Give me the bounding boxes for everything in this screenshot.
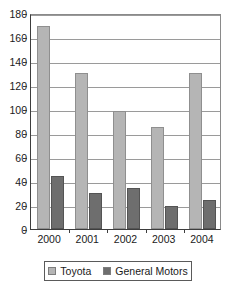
y-tick-mark: [23, 158, 27, 159]
x-tick-label-2004: 2004: [183, 233, 221, 247]
y-tick-mark: [23, 86, 27, 87]
bar-general-motors-2000: [51, 176, 64, 229]
y-tick-mark: [23, 134, 27, 135]
x-tick-label-2003: 2003: [145, 233, 183, 247]
x-tick-label-2001: 2001: [68, 233, 106, 247]
y-tick-mark: [23, 182, 27, 183]
y-tick-mark: [23, 14, 27, 15]
y-tick-mark: [23, 62, 27, 63]
legend-label: General Motors: [115, 266, 187, 277]
bar-group: [37, 15, 64, 229]
bar-group: [151, 15, 178, 229]
legend-item-general-motors[interactable]: General Motors: [103, 266, 187, 277]
bars-layer: [31, 15, 220, 229]
chart-legend: ToyotaGeneral Motors: [44, 261, 192, 281]
general-motors-swatch: [103, 267, 111, 275]
legend-label: Toyota: [60, 266, 91, 277]
legend-item-toyota[interactable]: Toyota: [48, 266, 91, 277]
page-edge-artifact: [0, 283, 234, 291]
y-tick-mark: [23, 38, 27, 39]
bar-group: [113, 15, 140, 229]
bar-general-motors-2003: [165, 206, 178, 229]
bar-group: [75, 15, 102, 229]
y-axis: 020406080100120140160180: [0, 14, 27, 230]
bar-toyota-2000: [37, 26, 50, 229]
plot-area: [30, 14, 221, 230]
bar-chart: 020406080100120140160180 200020012002200…: [0, 0, 234, 291]
bar-toyota-2002: [113, 111, 126, 229]
bar-group: [189, 15, 216, 229]
toyota-swatch: [48, 267, 56, 275]
x-axis: 20002001200220032004: [30, 233, 221, 249]
bar-general-motors-2001: [89, 193, 102, 229]
x-tick-label-2002: 2002: [106, 233, 144, 247]
bar-general-motors-2002: [127, 188, 140, 229]
bar-toyota-2004: [189, 73, 202, 229]
x-tick-label-2000: 2000: [30, 233, 68, 247]
y-tick-mark: [23, 110, 27, 111]
y-tick-mark: [23, 230, 27, 231]
bar-toyota-2001: [75, 73, 88, 229]
y-tick-mark: [23, 206, 27, 207]
bar-general-motors-2004: [203, 200, 216, 229]
bar-toyota-2003: [151, 127, 164, 229]
